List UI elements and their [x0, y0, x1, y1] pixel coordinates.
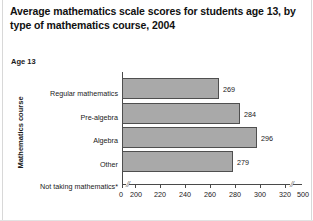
- figure-title: Average mathematics scale scores for stu…: [10, 5, 302, 32]
- category-label-algebra: Algebra: [93, 136, 118, 145]
- category-label-not-taking-mathematics: Not taking mathematics*: [40, 182, 118, 191]
- x-axis-line: [122, 184, 302, 185]
- x-axis-label-200: 200: [130, 190, 142, 199]
- bar-value-algebra: 296: [261, 134, 273, 143]
- bar-other: [122, 151, 233, 172]
- x-axis-label-500: 500: [297, 190, 309, 199]
- plot-area: 269 284 296 279: [122, 72, 290, 184]
- axis-break-right-icon: //: [290, 180, 293, 189]
- bar-pre-algebra: [122, 103, 240, 124]
- bar-value-regular-mathematics: 269: [223, 85, 235, 94]
- category-label-pre-algebra: Pre-algebra: [80, 113, 118, 122]
- figure-subtitle: Age 13: [11, 57, 36, 66]
- x-axis-label-320: 320: [279, 190, 291, 199]
- bar-value-pre-algebra: 284: [244, 110, 256, 119]
- x-axis: // // 0 200 220 240 260 280 300 320 500: [122, 184, 302, 204]
- category-label-other: Other: [100, 160, 118, 169]
- x-tick-300: [260, 184, 261, 188]
- bar-chart: Mathematics course Regular mathematics P…: [0, 72, 313, 202]
- x-axis-label-220: 220: [154, 190, 166, 199]
- y-axis-title: Mathematics course: [16, 83, 25, 183]
- x-tick-220: [160, 184, 161, 188]
- x-tick-200: [135, 184, 136, 188]
- x-tick-260: [210, 184, 211, 188]
- x-tick-0: [122, 184, 123, 188]
- x-axis-label-0: 0: [119, 190, 123, 199]
- category-label-regular-mathematics: Regular mathematics: [50, 89, 118, 98]
- axis-break-left-icon: //: [126, 180, 129, 189]
- x-axis-label-240: 240: [179, 190, 191, 199]
- figure-page: Average mathematics scale scores for stu…: [0, 0, 313, 221]
- x-tick-240: [185, 184, 186, 188]
- bar-algebra: [122, 127, 257, 148]
- bar-value-other: 279: [237, 158, 249, 167]
- x-axis-label-280: 280: [229, 190, 241, 199]
- x-tick-320: [285, 184, 286, 188]
- page-border-bottom: [0, 220, 313, 221]
- x-tick-280: [235, 184, 236, 188]
- x-axis-label-300: 300: [254, 190, 266, 199]
- bar-regular-mathematics: [122, 78, 219, 99]
- x-axis-label-260: 260: [204, 190, 216, 199]
